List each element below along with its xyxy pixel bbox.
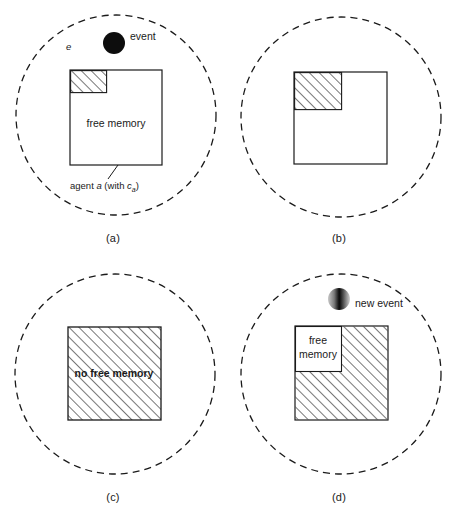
panel-b: (b): [226, 0, 452, 259]
panel-d-caption: (d): [226, 491, 452, 503]
agent-label-mid: (with: [102, 180, 127, 191]
no-free-memory-label: no free memory: [75, 367, 154, 379]
event-label: event: [130, 30, 156, 42]
event-dot-icon: [103, 32, 125, 54]
panel-a: e event free memory agent a (with ca) (a…: [0, 0, 226, 259]
agent-label: agent a (with ca): [70, 180, 139, 193]
panel-a-graphic: e event free memory agent a (with ca): [0, 0, 226, 232]
agent-leader-line: [108, 165, 118, 179]
event-dot-icon: [328, 288, 350, 310]
panel-a-caption: (a): [0, 232, 226, 244]
figure-root: e event free memory agent a (with ca) (a…: [0, 0, 453, 518]
used-memory-region: [71, 71, 107, 93]
panel-b-caption: (b): [226, 232, 452, 244]
panel-d-graphic: new event free memory: [226, 259, 452, 491]
free-memory-label: free memory: [87, 117, 147, 129]
environment-label: e: [66, 41, 71, 52]
agent-label-suffix: ): [136, 180, 139, 191]
panel-c-graphic: no free memory: [0, 259, 226, 491]
panel-b-graphic: [226, 0, 452, 232]
free-memory-label-line1: free: [309, 334, 327, 346]
panel-c: no free memory (c): [0, 259, 226, 518]
free-memory-label-line2: memory: [299, 348, 338, 360]
panel-c-caption: (c): [0, 491, 226, 503]
used-memory-region: [295, 73, 342, 110]
agent-label-prefix: agent: [70, 180, 96, 191]
new-event-label: new event: [355, 297, 403, 309]
panel-d: new event free memory (d): [226, 259, 452, 518]
